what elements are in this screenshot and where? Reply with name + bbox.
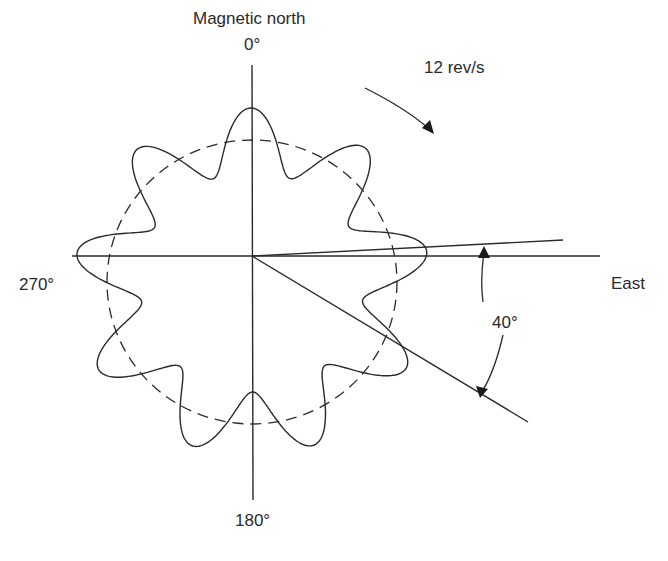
east-label: East: [611, 275, 645, 292]
north-angle-label: 0°: [244, 36, 260, 53]
north-south-axis: [252, 65, 253, 500]
ray-upper: [252, 240, 563, 256]
ray-lower: [252, 256, 528, 422]
north-title-label: Magnetic north: [193, 10, 305, 27]
angle-arc-lower: [483, 335, 503, 390]
arrowhead-up-icon: [478, 246, 490, 258]
west-angle-label: 270°: [19, 276, 54, 293]
south-angle-label: 180°: [235, 512, 270, 529]
rotation-speed-label: 12 rev/s: [424, 59, 484, 76]
rotation-arc: [365, 88, 428, 128]
diagram-canvas: [0, 0, 668, 561]
span-angle-label: 40°: [492, 314, 518, 331]
angle-arc-upper: [482, 252, 484, 302]
rotation-arrowhead-icon: [422, 120, 434, 134]
